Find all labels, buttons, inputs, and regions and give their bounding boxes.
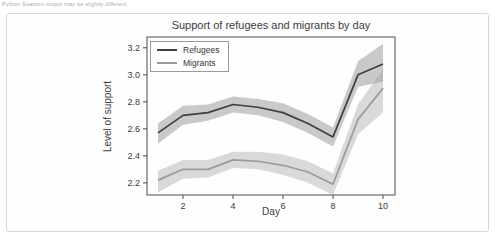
legend: Refugees Migrants	[150, 41, 229, 72]
x-tick-label: 2	[180, 201, 185, 211]
plot-area: 2.22.42.62.83.03.2246810	[0, 0, 495, 241]
x-tick-label: 8	[330, 201, 335, 211]
y-tick-label: 2.6	[127, 124, 140, 134]
migrants-line-swatch	[157, 62, 177, 64]
y-tick-label: 2.2	[127, 178, 140, 188]
legend-label-migrants: Migrants	[183, 59, 216, 68]
y-tick-label: 2.8	[127, 97, 140, 107]
page: Python Seaborn output may be slightly di…	[0, 0, 495, 241]
legend-entry-migrants: Migrants	[157, 59, 219, 68]
x-tick-label: 10	[378, 201, 388, 211]
y-tick-label: 2.4	[127, 151, 140, 161]
refugees-line-swatch	[157, 49, 177, 51]
y-tick-label: 3.2	[127, 43, 140, 53]
y-tick-label: 3.0	[127, 70, 140, 80]
legend-label-refugees: Refugees	[183, 46, 219, 55]
legend-entry-refugees: Refugees	[157, 46, 219, 55]
x-tick-label: 6	[280, 201, 285, 211]
x-tick-label: 4	[230, 201, 235, 211]
